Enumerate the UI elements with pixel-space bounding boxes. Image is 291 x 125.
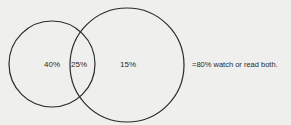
venn-diagram: 40% 25% 15% =80% watch or read both. xyxy=(0,0,291,125)
intersection-label: 25% xyxy=(71,60,87,70)
left-only-label: 40% xyxy=(44,60,60,70)
right-only-label: 15% xyxy=(120,60,136,70)
summary-text: =80% watch or read both. xyxy=(192,60,278,70)
